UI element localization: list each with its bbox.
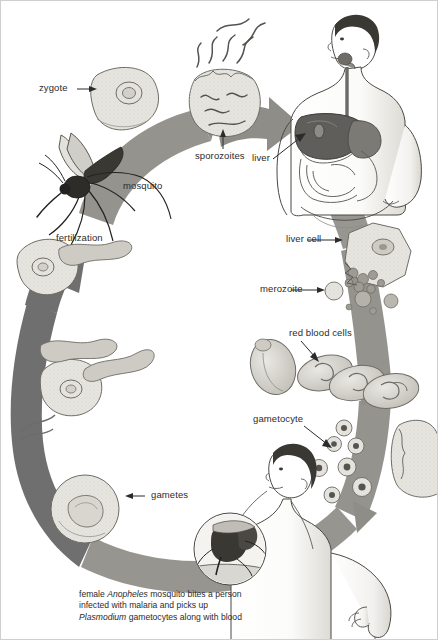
mosquito-bite-inset-illustration bbox=[194, 513, 267, 585]
label-liver: liver bbox=[252, 153, 270, 163]
label-liver-cell: liver cell bbox=[286, 234, 321, 244]
oocyst-sporozoites-illustration bbox=[189, 19, 265, 137]
gametocyte-arrow bbox=[304, 426, 332, 448]
caption-text-c: gametocytes along with blood bbox=[126, 612, 242, 622]
gamete-cell-illustration bbox=[51, 475, 119, 543]
diagram-artwork bbox=[1, 1, 438, 640]
red-blood-cells-illustration bbox=[243, 334, 421, 413]
label-gametes: gametes bbox=[151, 490, 188, 500]
caption-genus-anopheles: Anopheles bbox=[107, 589, 148, 599]
label-mosquito: mosquito bbox=[123, 181, 162, 191]
gametes-arrow bbox=[125, 493, 145, 499]
label-gametocyte: gametocyte bbox=[253, 414, 303, 424]
label-merozoite: merozoite bbox=[260, 284, 303, 294]
label-red-blood-cells: red blood cells bbox=[289, 328, 352, 338]
label-zygote: zygote bbox=[39, 83, 68, 93]
caption-text-a: female bbox=[79, 589, 107, 599]
zygote-cell-illustration bbox=[91, 67, 159, 129]
caption-genus-plasmodium: Plasmodium bbox=[79, 612, 126, 622]
malaria-life-cycle-figure: zygote sporozoites liver mosquito liver … bbox=[0, 0, 438, 640]
figure-caption: female Anopheles mosquito bites a person… bbox=[79, 589, 244, 623]
red-blood-cells-arrow bbox=[301, 341, 319, 362]
human-torso-illustration bbox=[277, 15, 421, 228]
label-sporozoites: sporozoites bbox=[195, 151, 245, 161]
label-fertilization: fertilization bbox=[56, 233, 103, 243]
